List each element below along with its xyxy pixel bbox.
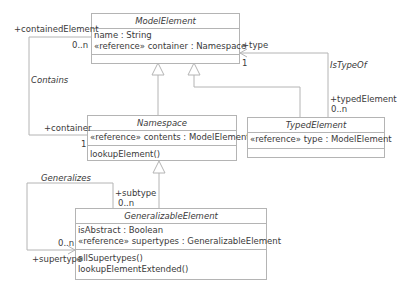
attribute: «reference» container : Namespace: [94, 41, 237, 52]
contains-association-name: Contains: [31, 75, 68, 85]
istypeof-association-name: IsTypeOf: [330, 60, 367, 70]
operations-section: lookupElement(): [88, 146, 236, 161]
istypeof-end1-multiplicity: 1: [242, 58, 247, 68]
contains-end2-role: +container: [44, 123, 91, 133]
generalization-triangle-icon: [152, 63, 164, 75]
class-name: Namespace: [88, 116, 236, 131]
class-name: GeneralizableElement: [76, 209, 266, 224]
attribute: name : String: [94, 30, 237, 41]
attributes-section: isAbstract : Boolean «reference» superty…: [76, 224, 266, 250]
class-name: ModelElement: [92, 14, 239, 29]
class-model-element[interactable]: ModelElement name : String «reference» c…: [91, 13, 240, 64]
contains-end1-multiplicity: 0..n: [72, 40, 88, 50]
class-name: TypedElement: [248, 118, 384, 133]
contains-end2-multiplicity: 1: [81, 139, 86, 149]
attribute: «reference» supertypes : GeneralizableEl…: [78, 236, 264, 247]
attributes-section: «reference» type : ModelElement: [248, 133, 384, 149]
generalizes-end1-multiplicity: 0..n: [118, 198, 134, 208]
generalizes-end2-role: +supertype: [32, 254, 82, 264]
operations-section: [248, 149, 384, 157]
istypeof-end2-role: +typedElement: [330, 94, 397, 104]
attribute: «reference» type : ModelElement: [250, 134, 382, 145]
contains-association-line: [29, 37, 91, 135]
operation: lookupElementExtended(): [78, 264, 264, 275]
istypeof-end2-multiplicity: 0..n: [331, 104, 347, 114]
operation: lookupElement(): [90, 149, 234, 160]
typedelement-generalization-line: [194, 75, 300, 117]
attributes-section: «reference» contents : ModelElement: [88, 131, 236, 146]
operation: allSupertypes(): [78, 253, 264, 264]
contains-end1-role: +containedElement: [14, 24, 99, 34]
attributes-section: name : String «reference» container : Na…: [92, 29, 239, 55]
generalization-triangle-icon: [188, 63, 200, 75]
class-generalizable-element[interactable]: GeneralizableElement isAbstract : Boolea…: [75, 208, 267, 280]
attribute: «reference» contents : ModelElement: [90, 132, 234, 143]
istypeof-end1-role: +type: [242, 40, 268, 50]
generalizes-association-name: Generalizes: [41, 173, 91, 183]
generalizes-end2-multiplicity: 0..n: [58, 238, 74, 248]
class-namespace[interactable]: Namespace «reference» contents : ModelEl…: [87, 115, 237, 161]
generalizes-end1-role: +subtype: [115, 188, 156, 198]
generalization-triangle-icon: [153, 161, 165, 173]
attribute: isAbstract : Boolean: [78, 225, 264, 236]
operations-section: allSupertypes() lookupElementExtended(): [76, 250, 266, 276]
class-typed-element[interactable]: TypedElement «reference» type : ModelEle…: [247, 117, 385, 158]
operations-section: [92, 55, 239, 63]
istypeof-association-line: [240, 53, 328, 117]
